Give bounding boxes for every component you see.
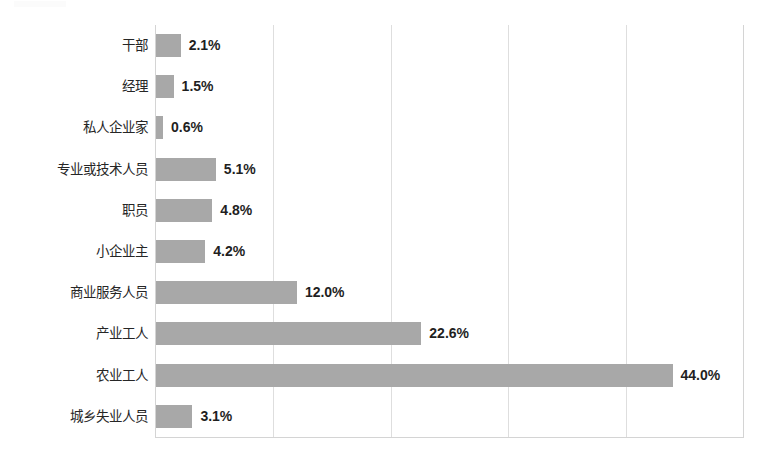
bar-value-label: 4.2%: [213, 231, 245, 272]
bar: [156, 75, 174, 98]
bar-row: 小企业主4.2%: [0, 231, 757, 272]
bar-row: 商业服务人员12.0%: [0, 272, 757, 313]
bar: [156, 199, 212, 222]
bar-row: 产业工人22.6%: [0, 313, 757, 354]
bar: [156, 240, 205, 263]
scan-artifact: [14, 1, 66, 7]
category-label: 经理: [0, 66, 148, 107]
bar-value-label: 22.6%: [429, 313, 469, 354]
category-label: 私人企业家: [0, 107, 148, 148]
category-label: 商业服务人员: [0, 272, 148, 313]
bar-value-label: 12.0%: [305, 272, 345, 313]
bar-value-label: 5.1%: [224, 149, 256, 190]
bar-value-label: 0.6%: [171, 107, 203, 148]
bar-row: 经理1.5%: [0, 66, 757, 107]
bar-row: 专业或技术人员5.1%: [0, 149, 757, 190]
bar: [156, 281, 297, 304]
bar: [156, 158, 216, 181]
bar-row: 城乡失业人员3.1%: [0, 396, 757, 437]
bar-value-label: 2.1%: [189, 25, 221, 66]
category-label: 城乡失业人员: [0, 396, 148, 437]
bar-row: 职员4.8%: [0, 190, 757, 231]
bar: [156, 322, 421, 345]
bar-value-label: 3.1%: [200, 396, 232, 437]
bar-rows: 干部2.1%经理1.5%私人企业家0.6%专业或技术人员5.1%职员4.8%小企…: [0, 25, 757, 437]
bar-value-label: 44.0%: [681, 355, 721, 396]
bar: [156, 116, 163, 139]
bar-row: 私人企业家0.6%: [0, 107, 757, 148]
category-label: 专业或技术人员: [0, 149, 148, 190]
bar-chart: 干部2.1%经理1.5%私人企业家0.6%专业或技术人员5.1%职员4.8%小企…: [0, 0, 757, 457]
bar-row: 农业工人44.0%: [0, 355, 757, 396]
bar-value-label: 1.5%: [182, 66, 214, 107]
category-label: 产业工人: [0, 313, 148, 354]
bar: [156, 34, 181, 57]
bar-value-label: 4.8%: [220, 190, 252, 231]
category-label: 农业工人: [0, 355, 148, 396]
bar: [156, 364, 673, 387]
category-label: 干部: [0, 25, 148, 66]
bar-row: 干部2.1%: [0, 25, 757, 66]
category-label: 小企业主: [0, 231, 148, 272]
category-label: 职员: [0, 190, 148, 231]
bar: [156, 405, 192, 428]
